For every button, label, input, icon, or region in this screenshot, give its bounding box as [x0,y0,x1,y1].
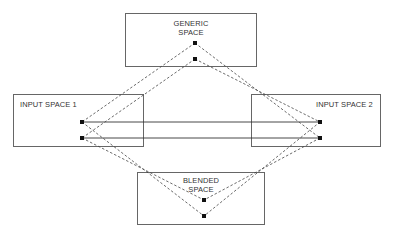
generic-label-line1: GENERIC [125,19,257,28]
input-space-2-label: INPUT SPACE 2 [316,100,373,109]
projection-line [204,122,320,216]
projection-line [82,43,195,122]
projection-line [195,59,320,122]
blended-node [202,198,206,202]
blended-space-label: BLENDED SPACE [137,176,265,194]
blended-label-line1: BLENDED [137,176,265,185]
blended-label-line2: SPACE [137,185,265,194]
input1-node [80,120,84,124]
input1-node [80,136,84,140]
generic-label-line2: SPACE [125,28,257,37]
input-space-1-label: INPUT SPACE 1 [20,100,77,109]
input2-node [318,120,322,124]
generic-space-label: GENERIC SPACE [125,19,257,37]
generic-node [193,41,197,45]
generic-node [193,57,197,61]
projection-line [82,59,195,138]
blended-node [202,214,206,218]
input2-node [318,136,322,140]
